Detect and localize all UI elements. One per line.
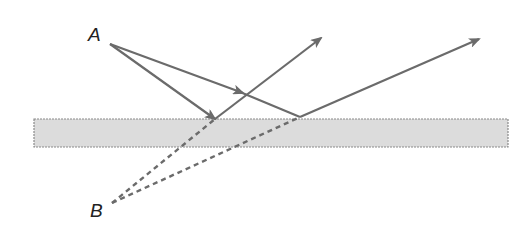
diagram-graphic (0, 0, 532, 235)
reflection-diagram: A B (0, 0, 532, 235)
reflected-ray-2 (300, 39, 479, 117)
incident-ray-2a (110, 44, 243, 93)
label-point-a: A (88, 25, 101, 44)
reflecting-slab (34, 119, 508, 147)
label-point-b: B (90, 201, 103, 220)
incident-ray-1 (110, 44, 215, 119)
reflected-ray-1 (215, 38, 321, 119)
incident-ray-2b (240, 92, 300, 117)
